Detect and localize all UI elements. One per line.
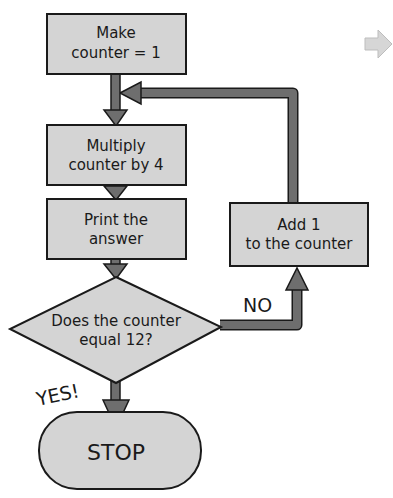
- stop-terminator[interactable]: STOP: [39, 412, 201, 489]
- add-box-line1: Add 1: [277, 216, 320, 234]
- start-box[interactable]: Make counter = 1: [47, 14, 186, 74]
- add-box-line2: to the counter: [246, 235, 354, 253]
- multiply-box-line2: counter by 4: [68, 156, 163, 174]
- add-box[interactable]: Add 1 to the counter: [230, 203, 368, 266]
- print-box-line1: Print the: [84, 211, 148, 229]
- print-box[interactable]: Print the answer: [47, 199, 186, 259]
- decision-diamond[interactable]: Does the counter equal 12?: [10, 277, 221, 383]
- decision-line2: equal 12?: [79, 331, 152, 349]
- multiply-box-line1: Multiply: [86, 137, 145, 155]
- arrow-start-to-multiply: [104, 74, 127, 126]
- flowchart: Make counter = 1 Multiply counter by 4 P…: [0, 0, 393, 498]
- no-label: NO: [243, 294, 272, 316]
- start-box-line1: Make: [96, 24, 136, 42]
- decision-line1: Does the counter: [51, 312, 181, 330]
- start-box-line2: counter = 1: [71, 44, 160, 62]
- next-arrow-icon[interactable]: [365, 30, 392, 58]
- yes-label: YES!: [33, 379, 81, 410]
- stop-label: STOP: [87, 440, 145, 465]
- arrow-print-to-decision: [104, 258, 127, 279]
- print-box-line2: answer: [89, 230, 144, 248]
- multiply-box[interactable]: Multiply counter by 4: [47, 125, 186, 185]
